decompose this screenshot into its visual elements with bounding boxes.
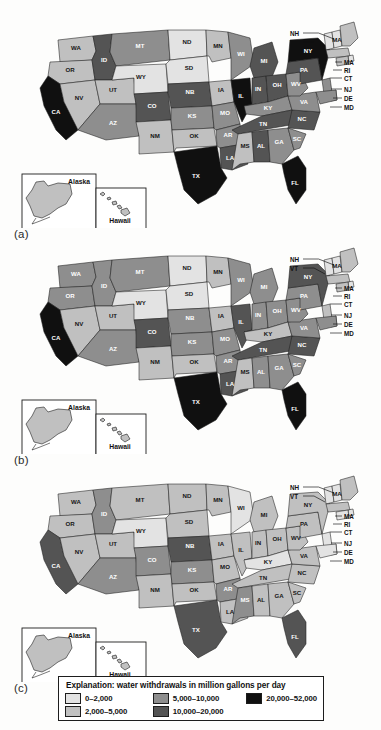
state-label-ut: UT <box>109 540 117 547</box>
state-md[interactable] <box>316 544 337 558</box>
state-label-sd: SD <box>185 64 194 71</box>
state-me[interactable] <box>340 248 358 272</box>
state-nb[interactable] <box>168 308 212 334</box>
callout-label-md: MD <box>344 558 354 565</box>
callout-label-md: MD <box>344 104 354 111</box>
state-md[interactable] <box>316 316 337 330</box>
map-panel-b: WAORCAIDNVUTAZMTWYCONMNDSDNBKSOKTXMNIAMO… <box>0 244 381 466</box>
state-label-wa: WA <box>71 270 81 277</box>
state-label-mt: MT <box>136 268 145 275</box>
state-label-il: IL <box>238 546 244 553</box>
state-label-il: IL <box>238 318 244 325</box>
legend-title: Explanation: water withdrawals in millio… <box>66 681 317 690</box>
state-label-al: AL <box>257 142 265 149</box>
state-label-sc: SC <box>293 135 302 142</box>
state-me[interactable] <box>340 476 358 500</box>
state-label-ca: CA <box>52 334 61 341</box>
state-md[interactable] <box>316 90 337 104</box>
callout-label-de: DE <box>344 549 353 556</box>
callout-label-ct: CT <box>344 75 353 82</box>
hawaii-island-2[interactable] <box>112 655 117 659</box>
map-panel-a: WAORCAIDNVUTAZMTWYCONMNDSDNBKSOKTXMNIAMO… <box>0 18 381 240</box>
hawaii-island-2[interactable] <box>112 201 117 205</box>
state-label-ks: KS <box>188 566 196 573</box>
state-label-ma: MA <box>332 36 342 43</box>
us-choropleth-a: WAORCAIDNVUTAZMTWYCONMNDSDNBKSOKTXMNIAMO… <box>0 18 381 228</box>
callout-label-ri: RI <box>344 521 351 528</box>
state-nb[interactable] <box>168 82 212 108</box>
legend-column-1: 0–2,000 2,000–5,000 <box>65 693 153 717</box>
callout-label-ri: RI <box>344 67 351 74</box>
callout-label-nh: NH <box>290 484 300 491</box>
legend-item: 10,000–20,000 <box>153 706 246 717</box>
inset-a: AlaskaHawaii <box>22 174 146 228</box>
state-ia[interactable] <box>209 534 234 560</box>
state-label-wv: WV <box>291 80 302 87</box>
state-label-sd: SD <box>185 290 194 297</box>
callout-label-nj: NJ <box>344 540 353 547</box>
us-choropleth-c: WAORCAIDNVUTAZMTWYCONMNDSDNBKSOKTXMNIAMO… <box>0 472 381 682</box>
legend-label: 2,000–5,000 <box>85 707 127 716</box>
panel-label-b: (b) <box>14 454 29 466</box>
state-label-mt: MT <box>136 496 145 503</box>
state-label-ar: AR <box>224 357 233 364</box>
state-label-wa: WA <box>71 44 81 51</box>
state-nd[interactable] <box>168 256 207 286</box>
state-label-nc: NC <box>298 341 307 348</box>
state-label-tx: TX <box>192 398 201 405</box>
state-label-ca: CA <box>52 108 61 115</box>
state-ia[interactable] <box>209 80 234 106</box>
state-label-co: CO <box>147 102 156 109</box>
legend-swatch <box>153 706 169 717</box>
state-label-co: CO <box>147 556 156 563</box>
map-panel-c: WAORCAIDNVUTAZMTWYCONMNDSDNBKSOKTXMNIAMO… <box>0 472 381 694</box>
state-tx[interactable] <box>174 372 227 430</box>
inset-b: AlaskaHawaii <box>22 400 146 454</box>
state-label-wi: WI <box>237 50 245 57</box>
state-nb[interactable] <box>168 536 212 562</box>
state-label-mt: MT <box>136 42 145 49</box>
state-label-id: ID <box>101 56 108 63</box>
callout-label-nj: NJ <box>344 86 353 93</box>
state-nd[interactable] <box>168 484 207 514</box>
state-tx[interactable] <box>174 146 227 204</box>
legend-column-3: 20,000–52,000 <box>246 693 317 717</box>
state-label-la: LA <box>226 154 235 161</box>
state-label-nm: NM <box>150 586 159 593</box>
callout-label-ct: CT <box>344 301 353 308</box>
state-label-nb: NB <box>186 314 195 321</box>
state-tx[interactable] <box>174 600 227 658</box>
state-label-pa: PA <box>300 520 309 527</box>
state-ia[interactable] <box>209 306 234 332</box>
state-label-mn: MN <box>213 268 222 275</box>
legend-swatch <box>65 706 81 717</box>
state-label-wy: WY <box>136 527 146 534</box>
state-label-ar: AR <box>224 131 233 138</box>
state-label-ia: IA <box>218 86 225 93</box>
state-label-wy: WY <box>136 73 146 80</box>
state-label-ga: GA <box>274 138 284 145</box>
state-label-ms: MS <box>240 596 249 603</box>
state-label-ny: NY <box>304 501 312 508</box>
state-label-al: AL <box>257 368 265 375</box>
state-label-or: OR <box>65 66 75 73</box>
state-label-pa: PA <box>300 292 309 299</box>
state-nd[interactable] <box>168 30 207 60</box>
state-label-ok: OK <box>189 586 199 593</box>
legend-label: 10,000–20,000 <box>173 707 224 716</box>
legend-item: 2,000–5,000 <box>65 706 153 717</box>
legend-swatch <box>65 693 81 704</box>
hawaii-island-2[interactable] <box>112 427 117 431</box>
legend-columns: 0–2,000 2,000–5,000 5,000–10,000 10,000–… <box>65 693 317 717</box>
state-label-ks: KS <box>188 338 196 345</box>
legend-item: 20,000–52,000 <box>246 693 317 704</box>
state-me[interactable] <box>340 22 358 46</box>
state-label-il: IL <box>238 92 244 99</box>
state-label-mn: MN <box>213 496 222 503</box>
state-label-wi: WI <box>237 276 245 283</box>
callout-label-de: DE <box>344 321 353 328</box>
state-label-ut: UT <box>109 86 117 93</box>
state-label-mo: MO <box>220 109 230 116</box>
state-label-sd: SD <box>185 518 194 525</box>
state-label-nv: NV <box>75 320 84 327</box>
